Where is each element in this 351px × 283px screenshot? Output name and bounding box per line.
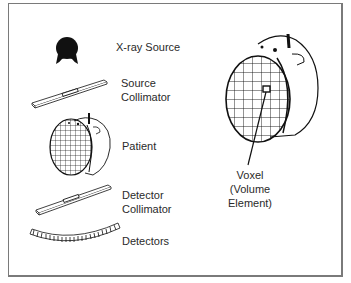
label-source-collimator: Source Collimator — [121, 76, 171, 104]
xray-source-icon — [56, 37, 78, 64]
detectors-icon — [30, 223, 120, 242]
label-detectors: Detectors — [122, 234, 169, 248]
label-xray-source: X-ray Source — [116, 40, 180, 54]
label-detector-collimator: Detector Collimator — [122, 188, 172, 216]
voxel-icon — [263, 86, 270, 92]
source-collimator-icon — [32, 80, 107, 108]
label-patient: Patient — [122, 139, 156, 153]
detector-collimator-icon — [36, 185, 111, 215]
patient-cross-section-icon — [226, 34, 318, 165]
patient-icon — [50, 113, 110, 175]
label-voxel: Voxel (Volume Element) — [227, 168, 273, 210]
